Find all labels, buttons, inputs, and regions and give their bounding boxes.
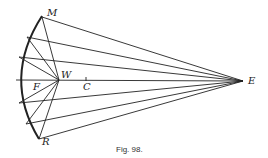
- figure-caption: Fig. 98.: [116, 146, 143, 154]
- label-m: M: [47, 8, 57, 18]
- label-w: W: [61, 70, 71, 80]
- incident-rays: [19, 17, 243, 139]
- reflected-rays: [19, 17, 59, 139]
- mirror-arc: [21, 16, 42, 139]
- label-e: E: [248, 76, 255, 86]
- concave-mirror-diagram: [0, 0, 268, 158]
- principal-axis: [16, 80, 243, 81]
- label-f: F: [33, 82, 40, 92]
- label-r: R: [42, 137, 50, 147]
- label-c: C: [83, 82, 91, 92]
